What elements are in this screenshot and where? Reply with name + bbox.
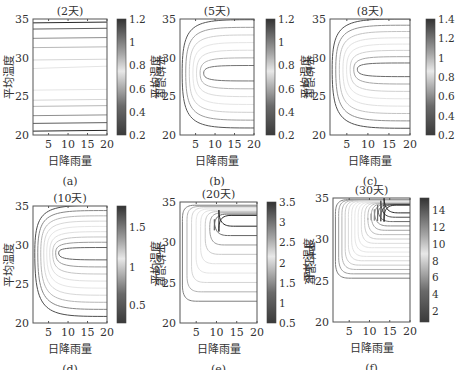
x-axis-label: 日降雨量	[197, 342, 241, 356]
contour-lines	[335, 196, 412, 278]
y-tick-label: 25	[15, 90, 29, 103]
y-tick-label: 30	[162, 52, 176, 65]
colorbar-tick-label: 6	[432, 271, 439, 283]
colorbar	[267, 202, 276, 323]
panel-a: 510152035302520(2天)日降雨量平均温度(a)1.210.80.6…	[0, 0, 150, 185]
y-tick-label: 30	[15, 52, 29, 65]
x-axis-label: 日降雨量	[350, 341, 394, 355]
x-tick-label: 20	[403, 138, 417, 151]
x-tick-label: 5	[346, 325, 353, 338]
y-tick-label: 25	[315, 275, 329, 288]
x-axis-label: 日降雨量	[48, 154, 92, 168]
y-axis-label: 平均温度	[302, 238, 316, 282]
y-tick-label: 25	[312, 90, 326, 103]
colorbar	[117, 206, 126, 323]
colorbar-tick-label: 0.5	[129, 299, 146, 311]
x-tick-label: 20	[247, 138, 261, 151]
colorbar-tick-label: 3.5	[279, 196, 296, 208]
panel-title: (10天)	[53, 192, 87, 205]
contour-lines	[35, 205, 109, 316]
x-tick-label: 15	[81, 138, 95, 151]
colorbar-tick-label: 1	[129, 261, 136, 273]
x-tick-label: 10	[61, 326, 75, 339]
x-tick-label: 10	[208, 138, 222, 151]
panel-d: 510152035302520(10天)日降雨量平均温度(d)1.510.5平均…	[0, 183, 150, 368]
x-tick-label: 20	[250, 326, 264, 339]
y-tick-label: 20	[315, 316, 329, 329]
panel-e: 510152035302520(20天)日降雨量平均温度(e)3.532.521…	[150, 183, 300, 368]
y-tick-label: 20	[15, 317, 29, 330]
x-tick-label: 15	[383, 325, 397, 338]
colorbar-tick-label: 2.5	[279, 236, 296, 248]
plot-area	[33, 19, 107, 135]
y-axis-label: 平均温度	[2, 55, 16, 99]
colorbar-tick-label: 8	[432, 255, 439, 267]
panel-title: (8天)	[357, 5, 384, 18]
x-axis-label: 日降雨量	[48, 342, 92, 356]
panel-title: (5天)	[204, 5, 231, 18]
x-tick-label: 20	[100, 138, 114, 151]
x-tick-label: 15	[228, 138, 242, 151]
contour-lines	[182, 205, 259, 301]
colorbar	[426, 19, 435, 135]
x-tick-label: 10	[361, 138, 375, 151]
panel-title: (2天)	[57, 5, 84, 18]
y-tick-label: 25	[15, 278, 29, 291]
colorbar-tick-label: 1.2	[438, 32, 455, 44]
colorbar-tick-label: 0.2	[129, 129, 146, 141]
colorbar-tick-label: 0.2	[438, 129, 455, 141]
x-tick-label: 20	[403, 325, 417, 338]
colorbar-tick-label: 1	[129, 36, 136, 48]
x-tick-label: 10	[61, 138, 75, 151]
x-tick-label: 15	[382, 138, 396, 151]
contour-lines	[182, 20, 256, 128]
colorbar-tick-label: 0.4	[438, 110, 455, 122]
y-tick-label: 30	[315, 233, 329, 246]
colorbar-tick-label: 0.4	[129, 106, 146, 118]
panel-f: 510152035302520(30天)日降雨量平均温度(f)141210864…	[300, 183, 450, 368]
panel-label: (e)	[211, 363, 226, 370]
x-tick-label: 20	[100, 326, 114, 339]
panel-title: (30天)	[355, 184, 389, 197]
colorbar-tick-label: 0.6	[278, 83, 295, 95]
colorbar-tick-label: 1.5	[129, 221, 146, 233]
x-axis-label: 日降雨量	[195, 154, 239, 168]
colorbar-tick-label: 10	[432, 238, 445, 250]
x-tick-label: 5	[45, 326, 52, 339]
colorbar-tick-label: 14	[432, 204, 446, 216]
x-tick-label: 10	[209, 326, 223, 339]
colorbar-tick-label: 1.4	[438, 13, 455, 25]
y-tick-label: 35	[15, 200, 29, 213]
x-axis-label: 日降雨量	[348, 154, 392, 168]
panel-label: (f)	[365, 362, 378, 370]
x-tick-label: 10	[362, 325, 376, 338]
colorbar-tick-label: 0.6	[129, 83, 146, 95]
y-tick-label: 20	[162, 129, 176, 142]
y-tick-label: 35	[162, 196, 176, 209]
colorbar	[420, 198, 429, 322]
colorbar-tick-label: 1	[279, 297, 286, 309]
y-tick-label: 35	[15, 13, 29, 26]
colorbar-tick-label: 0.8	[129, 59, 146, 71]
colorbar-tick-label: 1.2	[278, 13, 295, 25]
panel-c: 510152035302520(8天)日降雨量平均温度(c)1.41.210.8…	[300, 0, 450, 185]
colorbar-tick-label: 0.8	[278, 59, 295, 71]
colorbar-tick-label: 1	[278, 36, 285, 48]
y-axis-label: 平均温度	[2, 243, 16, 287]
x-tick-label: 5	[193, 326, 200, 339]
panel-title: (20天)	[202, 188, 236, 201]
x-tick-label: 15	[230, 326, 244, 339]
y-tick-label: 30	[162, 236, 176, 249]
colorbar-tick-label: 2	[279, 257, 286, 269]
colorbar-tick-label: 1	[438, 52, 445, 64]
panel-label: (d)	[62, 363, 78, 370]
colorbar-tick-label: 12	[432, 221, 445, 233]
y-tick-label: 35	[162, 13, 176, 26]
colorbar-tick-label: 2	[432, 305, 439, 317]
y-tick-label: 35	[312, 13, 326, 26]
colorbar-tick-label: 0.4	[278, 106, 295, 118]
panel-b: 510152035302520(5天)日降雨量平均温度(b)1.210.80.6…	[150, 0, 300, 185]
x-tick-label: 5	[192, 138, 199, 151]
y-tick-label: 30	[15, 239, 29, 252]
x-tick-label: 5	[343, 138, 350, 151]
